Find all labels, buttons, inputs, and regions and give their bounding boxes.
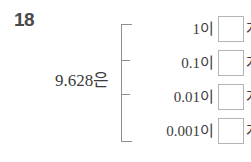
place-value-label: 0.001이 [166,122,218,140]
worksheet-problem: 18 9.628은 1이 개 0.1이 개 0.01이 개 0.001이 개 [0,0,251,162]
place-value-row-4: 0.001이 개 [130,117,251,145]
unit-label: 개 [244,54,251,72]
place-value-label: 0.1이 [181,54,218,72]
answer-box-tenths[interactable] [218,50,244,76]
unit-label: 개 [244,88,251,106]
place-value-row-1: 1이 개 [130,15,251,43]
place-value-label: 0.01이 [174,88,218,106]
answer-box-thousandths[interactable] [218,118,244,144]
unit-label: 개 [244,20,251,38]
place-value-label: 1이 [193,20,219,38]
problem-number: 18 [14,9,34,31]
place-value-row-3: 0.01이 개 [130,83,251,111]
answer-box-hundredths[interactable] [218,84,244,110]
answer-box-ones[interactable] [218,16,244,42]
place-value-row-2: 0.1이 개 [130,49,251,77]
unit-label: 개 [244,122,251,140]
bracket-tick-3 [121,94,130,95]
subject-expression: 9.628은 [55,71,109,91]
bracket-spine [121,24,122,142]
bracket-tick-2 [121,60,130,61]
